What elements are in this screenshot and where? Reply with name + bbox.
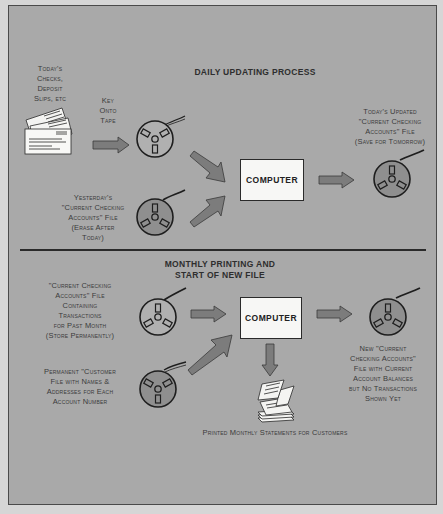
printed-statements-label: Printed Monthly Statements for Customers: [170, 428, 380, 438]
daily-section-title: DAILY UPDATING PROCESS: [150, 67, 360, 78]
arrow-diagonal-up-icon: [186, 332, 234, 378]
tape-reel-icon: [134, 286, 194, 338]
new-file-label: New "Current Checking Accounts" File wit…: [330, 344, 436, 404]
tape-reel-icon: [134, 358, 194, 418]
checks-documents-icon: [22, 104, 84, 156]
monthly-section-title: MONTHLY PRINTING AND START OF NEW FILE: [130, 259, 310, 281]
section-divider: [20, 249, 426, 251]
input-documents-label: Today's Checks, Deposit Slips, etc: [20, 64, 80, 104]
computer-box-daily: COMPUTER: [240, 159, 304, 201]
arrow-right-icon: [190, 306, 230, 322]
arrow-right-icon: [318, 172, 358, 188]
arrow-down-icon: [262, 343, 278, 377]
tape-reel-icon: [133, 188, 188, 240]
current-file-label: "Current Checking Accounts" File Contain…: [30, 281, 130, 341]
arrow-right-icon: [316, 306, 356, 322]
tape-reel-icon: [133, 112, 188, 160]
arrow-diagonal-down-icon: [188, 150, 228, 186]
computer-box-monthly: COMPUTER: [240, 297, 302, 339]
key-onto-tape-label: Key Onto Tape: [88, 96, 128, 126]
printed-statements-icon: [254, 378, 300, 424]
yesterday-file-label: Yesterday's "Current Checking Accounts" …: [52, 193, 134, 243]
arrow-right-icon: [92, 137, 132, 153]
customer-file-label: Permanent "Customer File with Names & Ad…: [28, 367, 132, 407]
tape-reel-icon: [370, 150, 432, 202]
arrow-diagonal-up-icon: [188, 192, 228, 228]
tape-reel-icon: [366, 286, 426, 338]
output-file-label: Today's Updated "Current Checking Accoun…: [340, 107, 440, 147]
